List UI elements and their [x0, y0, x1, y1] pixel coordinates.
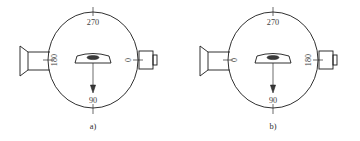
beam-arrow-down [90, 63, 95, 93]
angle-label-right: 0 [124, 58, 133, 62]
sample-holder [255, 54, 291, 64]
angle-label-left: 0 [230, 58, 239, 62]
angle-label-bottom: 90 [269, 96, 277, 105]
source-horn [200, 46, 230, 76]
diagram-canvas: 270 90 180 0 a) [0, 0, 360, 141]
angle-label-bottom: 90 [89, 96, 97, 105]
angle-label-top: 270 [267, 18, 279, 27]
beam-arrow-down [270, 63, 275, 93]
sample-holder [75, 54, 111, 64]
source-horn [20, 46, 50, 76]
panel-caption-b: b) [270, 122, 277, 131]
figure-root: 270 90 180 0 a) [0, 0, 360, 141]
panel-b: 270 90 0 180 b) [200, 7, 337, 131]
angle-label-left: 180 [50, 54, 59, 66]
panel-a: 270 90 180 0 a) [20, 7, 157, 131]
panel-caption-a: a) [90, 122, 97, 131]
angle-label-top: 270 [87, 18, 99, 27]
angle-label-right: 180 [304, 54, 313, 66]
